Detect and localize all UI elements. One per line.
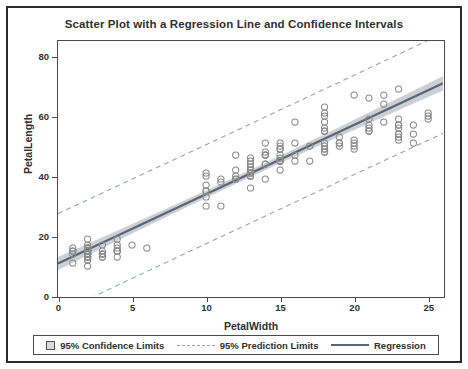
y-tick-label: 20 [15, 231, 49, 242]
x-tick-label: 10 [192, 302, 222, 313]
prediction-limits [58, 41, 443, 296]
scatter-point [203, 182, 209, 188]
y-tick-label: 60 [15, 111, 49, 122]
scatter-point [292, 140, 298, 146]
x-tick-label: 20 [340, 302, 370, 313]
scatter-point [321, 119, 327, 125]
scatter-point [262, 176, 268, 182]
scatter-point [395, 116, 401, 122]
legend-item-confidence-limits[interactable]: 95% Confidence Limits [46, 340, 164, 351]
chart-figure: Scatter Plot with a Regression Line and … [6, 6, 462, 363]
legend-item-regression[interactable]: Regression [331, 340, 426, 351]
y-tick-label: 80 [15, 51, 49, 62]
scatter-point [262, 140, 268, 146]
scatter-point [366, 95, 372, 101]
legend-item-prediction-limits[interactable]: 95% Prediction Limits [177, 340, 319, 351]
scatter-point [85, 236, 91, 242]
legend-label-prediction-limits: 95% Prediction Limits [220, 340, 319, 351]
scatter-point [292, 119, 298, 125]
prediction-swatch-icon [177, 345, 215, 346]
y-axis-label: PetalLength [22, 74, 34, 214]
scatter-point [233, 167, 239, 173]
scatter-point [351, 92, 357, 98]
scatter-point [114, 254, 120, 260]
x-tick-label: 0 [44, 302, 74, 313]
scatter-point [129, 242, 135, 248]
scatter-point [85, 263, 91, 269]
x-tick-label: 15 [266, 302, 296, 313]
scatter-point [410, 140, 416, 146]
x-tick-label: 25 [414, 302, 444, 313]
y-tick-label: 40 [15, 171, 49, 182]
scatter-point [277, 167, 283, 173]
scatter-point [233, 152, 239, 158]
scatter-point [410, 122, 416, 128]
confidence-swatch-icon [46, 341, 55, 350]
scatter-point [218, 203, 224, 209]
scatter-point [292, 158, 298, 164]
scatter-point [247, 185, 253, 191]
scatter-point [395, 86, 401, 92]
plot-canvas [58, 41, 443, 296]
plot-area [57, 40, 445, 298]
scatter-point [381, 92, 387, 98]
scatter-point [203, 203, 209, 209]
x-axis-label: PetalWidth [57, 320, 445, 332]
scatter-point [381, 119, 387, 125]
scatter-point [321, 104, 327, 110]
scatter-point [410, 131, 416, 137]
legend-label-regression: Regression [374, 340, 426, 351]
scatter-point [144, 245, 150, 251]
chart-title: Scatter Plot with a Regression Line and … [8, 18, 460, 30]
scatter-point [307, 158, 313, 164]
y-tick-label: 0 [15, 291, 49, 302]
chart-legend: 95% Confidence Limits 95% Prediction Lim… [33, 335, 439, 355]
x-tick-label: 5 [118, 302, 148, 313]
regression-swatch-icon [331, 344, 369, 346]
legend-label-confidence-limits: 95% Confidence Limits [60, 340, 164, 351]
